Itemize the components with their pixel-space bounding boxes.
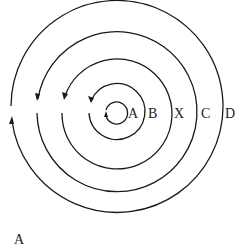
circle-a xyxy=(106,102,128,124)
label-c: C xyxy=(201,107,210,121)
label-d: D xyxy=(225,107,235,121)
figure-caption: A xyxy=(14,233,24,247)
label-b: B xyxy=(148,107,157,121)
label-a: A xyxy=(128,107,138,121)
arrow-up-icon xyxy=(104,111,108,117)
arrow-up-icon xyxy=(9,116,14,124)
label-x: X xyxy=(174,107,184,121)
circle-c xyxy=(37,32,197,192)
arrow-down-icon xyxy=(62,92,68,100)
arrow-down-icon xyxy=(35,93,40,101)
concentric-circles-diagram xyxy=(0,0,240,250)
